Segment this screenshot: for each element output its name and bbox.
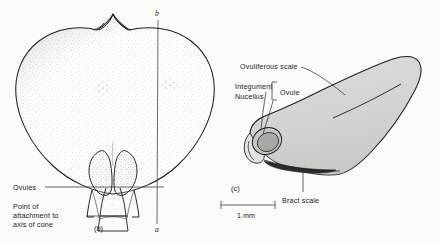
attachment-pad-rim [100, 217, 126, 219]
label-ovule: Ovule [280, 88, 300, 97]
label-attachment-line-1: Point of [13, 202, 39, 211]
stalk-wing-right [127, 190, 134, 218]
scale-bar-label: 1 mm [237, 211, 255, 220]
panel-label-c: (c) [231, 184, 240, 193]
panel-c-ovuliferous-scale: Ovuliferous scale Integument Nucellus Ov… [221, 57, 421, 220]
label-ovules: Ovules [13, 183, 37, 192]
stalk-stipple [105, 199, 121, 212]
panel-label-b: (b) [94, 224, 103, 233]
axis-marker-a: a [155, 225, 159, 234]
label-nucellus: Nucellus [235, 92, 264, 101]
scale-bar: 1 mm [221, 201, 275, 220]
cone-scale-figure: b a Ovules Point of attachment to axis o… [0, 0, 439, 244]
label-bract-scale: Bract scale [282, 196, 319, 205]
label-ovuliferous-scale: Ovuliferous scale [240, 62, 298, 71]
ovule-bracket-shape [272, 82, 277, 100]
label-attachment-line-3: axis of cone [13, 220, 53, 229]
stalk-wing-left [92, 190, 99, 218]
axis-marker-b: b [155, 9, 159, 18]
ovuliferous-scale-body [250, 57, 421, 179]
label-integument: Integument [235, 82, 272, 91]
ovule-bracket [272, 82, 277, 100]
figure-container: b a Ovules Point of attachment to axis o… [0, 0, 439, 244]
ovuliferous-scale-outline [250, 57, 421, 175]
label-attachment-line-2: attachment to [13, 211, 59, 220]
